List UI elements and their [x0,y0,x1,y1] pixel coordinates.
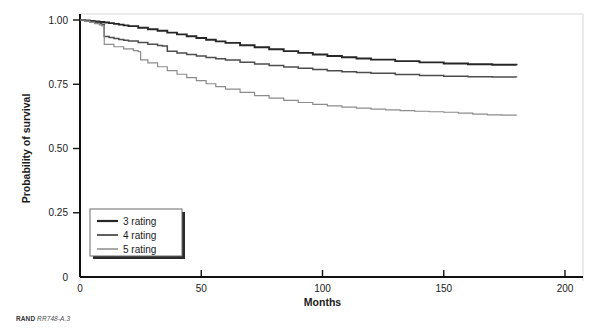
x-tick-label: 150 [435,283,452,294]
x-tick-label: 0 [77,283,83,294]
footnote-brand: RAND [16,315,35,322]
y-tick-label: 1.00 [49,15,69,26]
y-axis-label: Probability of survival [20,94,32,204]
legend-label-2: 4 rating [123,230,156,241]
series-group [80,20,517,115]
survival-chart: 00.250.500.751.00050100150200MonthsProba… [0,0,603,332]
x-tick-label: 50 [196,283,208,294]
y-tick-label: 0.25 [49,207,69,218]
y-axis-ticks: 00.250.500.751.00 [49,15,80,283]
y-tick-label: 0.50 [49,143,69,154]
legend-label-3: 5 rating [123,244,156,255]
x-tick-label: 200 [557,283,574,294]
figure-footnote: RAND RR748-A.3 [16,315,70,322]
figure-container: 00.250.500.751.00050100150200MonthsProba… [0,0,603,332]
legend: 3 rating4 rating5 rating [90,209,185,259]
x-tick-label: 100 [314,283,331,294]
y-tick-label: 0.75 [49,79,69,90]
footnote-code: RR748-A.3 [37,315,70,322]
x-axis-ticks: 050100150200 [77,270,574,294]
legend-label-1: 3 rating [123,216,156,227]
x-axis-label: Months [304,296,341,308]
y-tick-label: 0 [62,272,68,283]
